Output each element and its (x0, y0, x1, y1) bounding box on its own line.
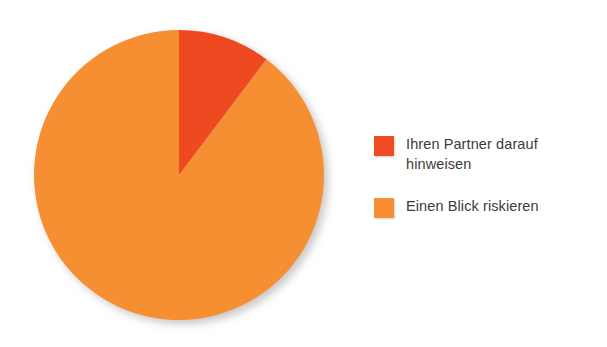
legend-item-einen-blick-riskieren[interactable]: Einen Blick riskieren (374, 196, 599, 218)
pie-slices-group (34, 30, 324, 320)
chart-legend: Ihren Partner darauf hinweisen Einen Bli… (374, 134, 599, 218)
pie-chart-figure: Ihren Partner darauf hinweisen Einen Bli… (0, 0, 607, 347)
legend-swatch-ihren-partner-darauf-hinweisen (374, 136, 394, 156)
legend-label-einen-blick-riskieren: Einen Blick riskieren (406, 196, 539, 216)
legend-item-ihren-partner-darauf-hinweisen[interactable]: Ihren Partner darauf hinweisen (374, 134, 599, 174)
pie-chart-svg (0, 0, 360, 347)
pie-chart-plot-area (0, 0, 360, 347)
legend-label-ihren-partner-darauf-hinweisen: Ihren Partner darauf hinweisen (406, 134, 538, 174)
legend-swatch-einen-blick-riskieren (374, 198, 394, 218)
pie-slice-einen-blick-riskieren[interactable] (34, 30, 324, 320)
